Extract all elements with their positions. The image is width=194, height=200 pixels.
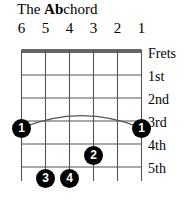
- finger-dot-4-string-4: 4: [60, 169, 79, 188]
- fret-label-frets: Frets: [148, 46, 194, 62]
- barre-arc: [22, 116, 142, 128]
- finger-dot-3-string-5: 3: [36, 169, 55, 188]
- finger-dot-1-string-1: 1: [132, 119, 151, 138]
- fret-label-4th: 4th: [148, 138, 194, 154]
- fret-label-1st: 1st: [148, 69, 194, 85]
- fret-label-5th: 5th: [148, 161, 194, 177]
- finger-dot-2-string-3: 2: [84, 146, 103, 165]
- fret-lines: [22, 50, 142, 167]
- fret-label-3rd: 3rd: [148, 115, 194, 131]
- finger-dot-1-string-6: 1: [12, 119, 31, 138]
- chord-diagram-card: The Abchord 654321 Frets1st2nd3rd4th5th …: [0, 0, 194, 200]
- fret-label-2nd: 2nd: [148, 92, 194, 108]
